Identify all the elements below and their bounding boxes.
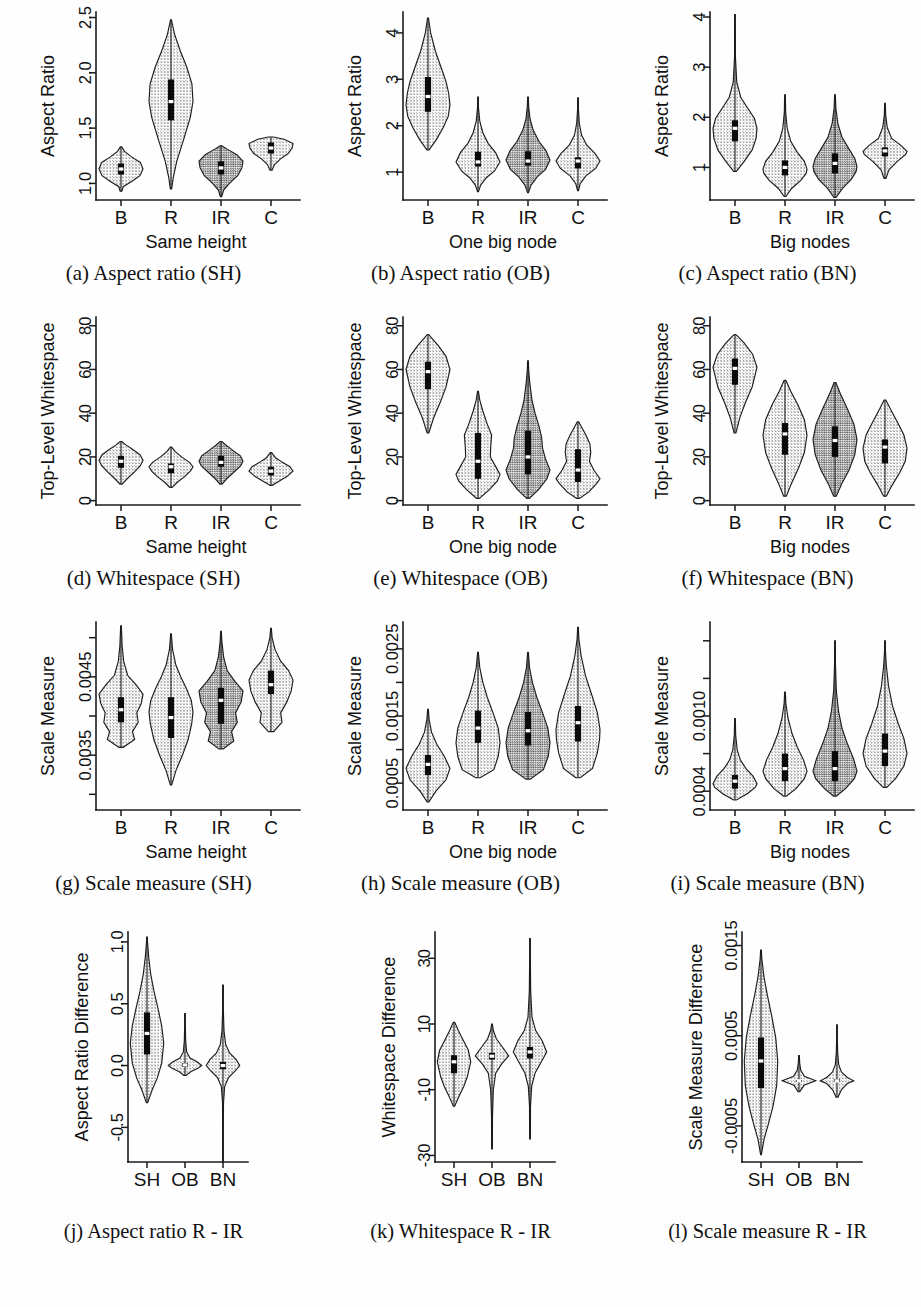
y-tick-label: 80 bbox=[76, 317, 94, 335]
violin-h-C bbox=[556, 627, 600, 777]
panel-f: 020406080Top-Level WhitespaceBRIRCBig no… bbox=[614, 305, 921, 610]
x-axis-title: One big node bbox=[449, 232, 557, 252]
x-category-label: C bbox=[264, 207, 278, 228]
violin-l-OB bbox=[782, 1056, 815, 1092]
x-category-label: B bbox=[422, 512, 435, 533]
y-tick-label: 0.0025 bbox=[383, 624, 401, 674]
x-category-label: C bbox=[878, 817, 892, 838]
violin-i-C bbox=[863, 641, 907, 788]
x-category-label: B bbox=[115, 207, 128, 228]
violin-chart-l: -0.00050.00050.0015Scale Measure Differe… bbox=[614, 920, 921, 1220]
panel-e: 020406080Top-Level WhitespaceBRIRCOne bi… bbox=[307, 305, 614, 610]
violin-i-IR bbox=[813, 641, 857, 796]
y-tick-label: 3 bbox=[383, 75, 401, 84]
y-axis-title: Scale Measure bbox=[38, 656, 58, 776]
y-axis-title: Top-Level Whitespace bbox=[38, 322, 58, 499]
violin-g-B bbox=[99, 626, 143, 747]
x-category-label: R bbox=[471, 512, 485, 533]
violin-h-IR bbox=[506, 652, 550, 779]
y-tick-label: 0.5 bbox=[108, 992, 126, 1015]
y-tick-label: 4 bbox=[690, 12, 708, 21]
violin-c-R bbox=[763, 95, 807, 197]
violin-chart-e: 020406080Top-Level WhitespaceBRIRCOne bi… bbox=[307, 305, 614, 567]
plot-area-f: 020406080Top-Level WhitespaceBRIRCBig no… bbox=[614, 305, 921, 567]
panel-b: 1234Aspect RatioBRIRCOne big node(b) Asp… bbox=[307, 0, 614, 305]
violin-b-C bbox=[556, 98, 600, 191]
y-axis-title: Aspect Ratio bbox=[345, 55, 365, 157]
violin-a-B bbox=[99, 147, 143, 191]
y-tick-label: -0.0005 bbox=[722, 1098, 740, 1154]
y-axis-title: Aspect Ratio Difference bbox=[72, 953, 92, 1142]
x-axis-title: Same height bbox=[145, 537, 246, 557]
x-category-label: R bbox=[471, 207, 485, 228]
x-axis-title: Same height bbox=[145, 842, 246, 862]
violin-k-OB bbox=[475, 1024, 508, 1149]
x-category-label: OB bbox=[171, 1169, 198, 1190]
y-tick-label: 2 bbox=[690, 113, 708, 122]
x-category-label: IR bbox=[519, 207, 538, 228]
x-category-label: B bbox=[729, 817, 742, 838]
y-axis-title: Scale Measure bbox=[345, 656, 365, 776]
x-category-label: IR bbox=[826, 512, 845, 533]
plot-area-k: -30-101030Whitespace DifferenceSHOBBN bbox=[307, 920, 614, 1220]
panel-d: 020406080Top-Level WhitespaceBRIRCSame h… bbox=[0, 305, 307, 610]
x-category-label: B bbox=[729, 207, 742, 228]
x-category-label: C bbox=[571, 512, 585, 533]
panel-grid: 1.01.52.02.5Aspect RatioBRIRCSame height… bbox=[0, 0, 921, 1307]
violin-a-IR bbox=[199, 146, 243, 197]
violin-c-IR bbox=[813, 95, 857, 198]
y-tick-label: 60 bbox=[76, 360, 94, 378]
violin-h-B bbox=[406, 709, 450, 802]
violin-chart-d: 020406080Top-Level WhitespaceBRIRCSame h… bbox=[0, 305, 307, 567]
violin-f-B bbox=[713, 334, 757, 432]
x-category-label: SH bbox=[748, 1169, 774, 1190]
violin-a-C bbox=[249, 137, 293, 170]
violin-i-B bbox=[713, 719, 757, 800]
violin-chart-h: 0.00050.00150.0025Scale MeasureBRIRCOne … bbox=[307, 610, 614, 872]
plot-area-c: 1234Aspect RatioBRIRCBig nodes bbox=[614, 0, 921, 262]
y-tick-label: 0.0015 bbox=[722, 920, 740, 970]
y-tick-label: 0.0035 bbox=[76, 730, 94, 780]
y-tick-label: 1.0 bbox=[108, 930, 126, 953]
violin-j-BN bbox=[206, 985, 239, 1162]
y-tick-label: 0.0 bbox=[108, 1054, 126, 1077]
y-axis-title: Top-Level Whitespace bbox=[652, 322, 672, 499]
y-tick-label: 40 bbox=[383, 404, 401, 422]
panel-i: 0.00040.0010Scale MeasureBRIRCBig nodes(… bbox=[614, 610, 921, 920]
y-tick-label: 4 bbox=[383, 28, 401, 37]
violin-i-R bbox=[763, 692, 807, 796]
y-tick-label: 1 bbox=[383, 168, 401, 177]
panel-caption-f: (f) Whitespace (BN) bbox=[681, 567, 853, 590]
violin-chart-j: -0.50.00.51.0Aspect Ratio DifferenceSHOB… bbox=[0, 920, 307, 1220]
violin-e-C bbox=[556, 422, 600, 499]
x-category-label: OB bbox=[785, 1169, 812, 1190]
violin-j-SH bbox=[130, 937, 163, 1103]
violin-l-SH bbox=[744, 950, 777, 1155]
panel-a: 1.01.52.02.5Aspect RatioBRIRCSame height… bbox=[0, 0, 307, 305]
y-axis-title: Scale Measure Difference bbox=[686, 944, 706, 1151]
violin-d-C bbox=[249, 453, 293, 486]
violin-b-IR bbox=[506, 97, 550, 193]
x-axis-title: Big nodes bbox=[770, 842, 850, 862]
x-axis-title: One big node bbox=[449, 842, 557, 862]
panel-caption-c: (c) Aspect ratio (BN) bbox=[679, 262, 857, 285]
violin-chart-k: -30-101030Whitespace DifferenceSHOBBN bbox=[307, 920, 614, 1220]
y-axis-title: Top-Level Whitespace bbox=[345, 322, 365, 499]
x-category-label: R bbox=[778, 207, 792, 228]
y-tick-label: 2 bbox=[383, 121, 401, 130]
y-tick-label: 2.0 bbox=[76, 61, 94, 84]
panel-caption-a: (a) Aspect ratio (SH) bbox=[66, 262, 242, 285]
y-tick-label: 20 bbox=[76, 448, 94, 466]
y-tick-label: 0.0005 bbox=[383, 758, 401, 808]
y-tick-label: 1.0 bbox=[76, 172, 94, 195]
x-category-label: B bbox=[422, 817, 435, 838]
violin-f-IR bbox=[813, 383, 857, 497]
x-category-label: R bbox=[164, 817, 178, 838]
x-category-label: C bbox=[571, 207, 585, 228]
panel-caption-g: (g) Scale measure (SH) bbox=[55, 872, 252, 895]
violin-b-B bbox=[406, 18, 450, 150]
y-tick-label: -0.5 bbox=[108, 1113, 126, 1141]
x-axis-title: Same height bbox=[145, 232, 246, 252]
x-category-label: R bbox=[164, 207, 178, 228]
violin-chart-c: 1234Aspect RatioBRIRCBig nodes bbox=[614, 0, 921, 262]
